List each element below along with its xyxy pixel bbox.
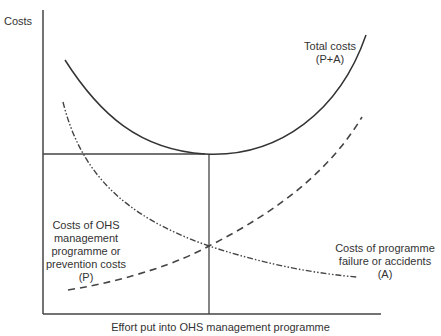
prevention-cost-annotation: Costs of OHS management programme or pre… bbox=[44, 219, 128, 284]
chart-canvas bbox=[0, 0, 441, 336]
total-cost-label-line2: (P+A) bbox=[300, 53, 360, 66]
prevention-label-line2: management bbox=[44, 232, 128, 245]
prevention-label-line4: prevention costs bbox=[44, 258, 128, 271]
x-axis-label: Effort put into OHS management programme bbox=[100, 321, 341, 334]
prevention-label-line1: Costs of OHS bbox=[44, 219, 128, 232]
accident-cost-annotation: Costs of programme failure or accidents … bbox=[330, 242, 440, 281]
y-axis-label: Costs bbox=[4, 15, 32, 28]
prevention-label-line5: (P) bbox=[44, 271, 128, 284]
accident-label-line2: failure or accidents bbox=[330, 255, 440, 268]
total-cost-annotation: Total costs (P+A) bbox=[300, 40, 360, 66]
accident-label-line1: Costs of programme bbox=[330, 242, 440, 255]
prevention-label-line3: programme or bbox=[44, 245, 128, 258]
total-cost-label-line1: Total costs bbox=[300, 40, 360, 53]
accident-label-line3: (A) bbox=[330, 268, 440, 281]
